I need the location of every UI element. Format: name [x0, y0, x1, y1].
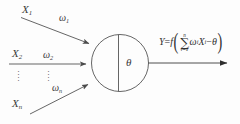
input-label-x2: X2 [12, 48, 22, 61]
formula-paren-open: ( [174, 34, 179, 51]
ellipsis-inputs: ···· [17, 70, 20, 82]
neuron-circle [92, 35, 149, 92]
input-label-xn: Xn [12, 98, 22, 111]
ellipsis-weights: ···· [47, 70, 50, 82]
formula-threshold: θ [212, 36, 217, 47]
weight-label-w1: ω1 [59, 13, 69, 24]
formula-paren-close: ) [218, 34, 223, 51]
weight-label-wn: ωn [52, 83, 62, 94]
neuron-diagram-graphic [0, 0, 240, 124]
output-formula: Y = f ( n ∑ i=1 ωi Xi − θ ) [159, 32, 223, 52]
connection-line-input-1 [21, 18, 89, 44]
formula-summation: n ∑ i=1 [180, 33, 189, 53]
threshold-label-theta: θ [126, 57, 131, 68]
input-label-x1: X1 [22, 4, 32, 17]
weight-label-w2: ω2 [43, 50, 53, 61]
formula-sum-lower: i=1 [181, 47, 189, 52]
formula-term-weight: ω [190, 36, 197, 47]
diagram-canvas: X1 ω1 X2 ω2 ···· ···· Xn ωn θ Y = f ( n … [0, 0, 240, 124]
